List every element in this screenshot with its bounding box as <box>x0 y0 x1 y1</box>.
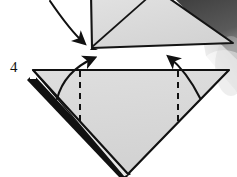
origami-diagram-figure: 4 <box>0 0 237 177</box>
diagram-canvas <box>0 0 237 177</box>
step-number-label: 4 <box>10 60 18 75</box>
